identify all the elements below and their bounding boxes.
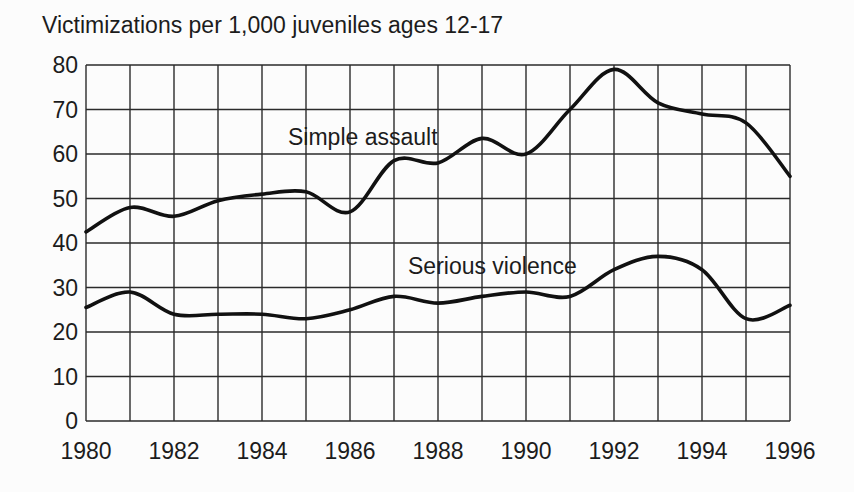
x-tick-label: 1980	[60, 438, 111, 464]
series-label-serious-violence: Serious violence	[408, 253, 577, 279]
y-tick-label: 10	[52, 364, 78, 390]
series-label-simple-assault: Simple assault	[288, 124, 438, 150]
x-tick-label: 1992	[588, 438, 639, 464]
x-tick-label: 1990	[500, 438, 551, 464]
y-tick-label: 80	[52, 52, 78, 78]
x-tick-label: 1996	[764, 438, 815, 464]
x-tick-label: 1982	[148, 438, 199, 464]
y-tick-label: 70	[52, 97, 78, 123]
x-tick-label: 1986	[324, 438, 375, 464]
x-tick-label: 1988	[412, 438, 463, 464]
y-tick-label: 0	[65, 408, 78, 434]
x-tick-label: 1994	[676, 438, 727, 464]
y-tick-label: 60	[52, 141, 78, 167]
y-tick-label: 40	[52, 230, 78, 256]
y-tick-label: 50	[52, 186, 78, 212]
x-tick-label: 1984	[236, 438, 287, 464]
line-chart-plot: 0102030405060708019801982198419861988199…	[0, 0, 854, 492]
chart-figure: Victimizations per 1,000 juveniles ages …	[0, 0, 854, 492]
y-tick-label: 20	[52, 319, 78, 345]
y-tick-label: 30	[52, 275, 78, 301]
